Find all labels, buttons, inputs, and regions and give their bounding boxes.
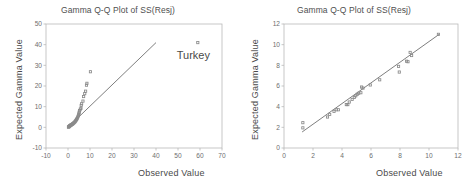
data-point [89, 71, 91, 73]
data-point [411, 54, 413, 56]
data-point [360, 92, 362, 94]
x-tick-label: 50 [174, 152, 182, 159]
reference-line [302, 34, 439, 132]
data-point [379, 79, 381, 81]
x-tick-label: 30 [130, 152, 138, 159]
x-tick-label: 8 [398, 152, 402, 159]
x-tick-label: 60 [196, 152, 204, 159]
annotation-label: Turkey [177, 49, 211, 61]
y-tick-label: -10 [32, 144, 42, 151]
data-point [82, 100, 84, 102]
x-tick-label: 70 [218, 152, 226, 159]
y-tick-label: 12 [273, 20, 281, 27]
y-tick-label: 6 [276, 82, 280, 89]
x-tick-label: 20 [108, 152, 116, 159]
data-point [329, 113, 331, 115]
data-point [81, 103, 83, 105]
x-tick-label: 10 [86, 152, 94, 159]
y-tick-label: 10 [35, 103, 43, 110]
x-tick-label: 4 [340, 152, 344, 159]
x-tick-label: 6 [369, 152, 373, 159]
data-point [302, 122, 304, 124]
x-tick-label: 10 [425, 152, 433, 159]
y-tick-label: 0 [38, 124, 42, 131]
qq-plot-figure: Gamma Q-Q Plot of SS(Resj) Expected Gamm… [0, 0, 472, 190]
y-tick-label: 2 [276, 124, 280, 131]
reference-line [68, 43, 156, 127]
data-point [398, 71, 400, 73]
y-tick-label: 50 [35, 20, 43, 27]
data-point [337, 109, 339, 111]
chart-panel-left: Gamma Q-Q Plot of SS(Resj) Expected Gamm… [0, 0, 236, 190]
data-point [84, 93, 86, 95]
x-tick-label: 0 [66, 152, 70, 159]
data-point [302, 127, 304, 129]
data-point [409, 51, 411, 53]
x-tick-label: 12 [454, 152, 462, 159]
data-point [326, 116, 328, 118]
data-point [85, 90, 87, 92]
chart-panel-right: Gamma Q-Q Plot of SS(Resj) Expected Gamm… [236, 0, 472, 190]
y-tick-label: 30 [35, 62, 43, 69]
data-point [197, 42, 199, 44]
x-tick-label: 40 [152, 152, 160, 159]
x-tick-label: 0 [282, 152, 286, 159]
y-tick-label: 8 [276, 62, 280, 69]
x-tick-label: -10 [41, 152, 51, 159]
y-tick-label: 10 [273, 41, 281, 48]
y-tick-label: 40 [35, 41, 43, 48]
plot-area-right: 024681012024681012 [236, 0, 472, 190]
data-point [397, 65, 399, 67]
y-tick-label: 0 [276, 144, 280, 151]
data-point [83, 95, 85, 97]
y-tick-label: 20 [35, 82, 43, 89]
y-tick-label: 4 [276, 103, 280, 110]
data-point [86, 82, 88, 84]
data-point [369, 84, 371, 86]
data-point [348, 101, 350, 103]
x-tick-label: 2 [311, 152, 315, 159]
plot-area-left: -10010203040506070-1001020304050Turkey [0, 0, 236, 190]
plot-frame [46, 24, 222, 148]
